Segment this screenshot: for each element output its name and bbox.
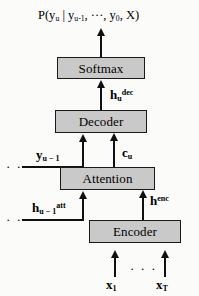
label-c-u-sub: u bbox=[128, 152, 132, 161]
node-decoder[interactable]: Decoder bbox=[55, 110, 147, 133]
arrow-x1-stem bbox=[114, 258, 116, 277]
formula-ellipsis: , ···, y bbox=[85, 8, 116, 22]
node-attention[interactable]: Attention bbox=[60, 167, 155, 190]
label-xT: xT bbox=[156, 278, 168, 291]
node-softmax-label: Softmax bbox=[79, 62, 124, 75]
arrow-h-att-horizontal bbox=[22, 219, 84, 221]
formula-suffix: , X) bbox=[120, 8, 139, 22]
node-decoder-label: Decoder bbox=[79, 115, 124, 128]
arrow-h-att-head bbox=[79, 191, 87, 199]
label-h-dec: hudec bbox=[110, 88, 133, 101]
node-attention-label: Attention bbox=[82, 172, 132, 185]
formula-sub-u-1: u-1 bbox=[74, 14, 84, 23]
arrow-encoder-to-attention-head bbox=[139, 190, 147, 198]
diagram-canvas: P(yu | yu-1, ···, y0, X) Softmax hudec D… bbox=[0, 0, 199, 296]
formula-prefix: P(y bbox=[38, 8, 55, 22]
ellipsis-inputs: · · · bbox=[130, 262, 157, 275]
node-softmax[interactable]: Softmax bbox=[57, 57, 145, 79]
label-h-att-sub: u − 1 bbox=[39, 207, 56, 216]
output-probability-formula: P(yu | yu-1, ···, y0, X) bbox=[38, 9, 139, 22]
label-x1-sub: 1 bbox=[113, 284, 117, 293]
arrow-x1-head bbox=[111, 250, 119, 258]
label-c-u: cu bbox=[122, 146, 132, 159]
arrow-xT-stem bbox=[164, 258, 166, 277]
label-h-att: hu − 1att bbox=[32, 201, 66, 214]
label-x1: x1 bbox=[106, 278, 117, 291]
label-xT-sub: T bbox=[163, 284, 168, 293]
node-encoder-label: Encoder bbox=[113, 225, 157, 238]
arrow-encoder-to-attention-stem bbox=[142, 198, 144, 220]
formula-mid: | y bbox=[59, 8, 74, 22]
label-h-enc-sup: enc bbox=[157, 194, 169, 203]
label-h-dec-sup: dec bbox=[122, 88, 134, 97]
arrow-y-prev-vertical bbox=[82, 142, 84, 167]
arrow-softmax-to-output-head bbox=[97, 28, 105, 36]
label-y-prev-sub: u − 1 bbox=[43, 154, 60, 163]
arrow-xT-head bbox=[161, 250, 169, 258]
arrow-softmax-to-output-stem bbox=[100, 36, 102, 57]
label-h-att-sup: att bbox=[56, 201, 65, 210]
label-h-enc: henc bbox=[150, 194, 169, 207]
label-y-prev: yu − 1 bbox=[36, 148, 60, 161]
arrow-attention-to-decoder-stem bbox=[113, 141, 115, 167]
arrow-h-att-vertical bbox=[82, 199, 84, 220]
arrow-decoder-to-softmax-stem bbox=[100, 88, 102, 110]
arrow-y-prev-head bbox=[79, 134, 87, 142]
arrow-attention-to-decoder-head bbox=[110, 133, 118, 141]
node-encoder[interactable]: Encoder bbox=[89, 220, 181, 243]
arrow-decoder-to-softmax-head bbox=[97, 80, 105, 88]
